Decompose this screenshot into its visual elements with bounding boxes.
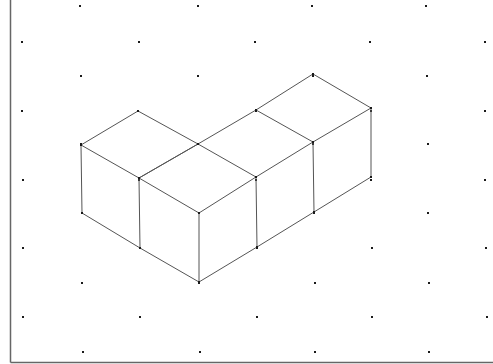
- grid-dot: [21, 110, 23, 112]
- cube-vertex: [139, 247, 141, 249]
- cube-vertex: [80, 144, 82, 146]
- canvas-frame-border: [11, 0, 493, 363]
- grid-dot: [484, 179, 486, 181]
- grid-dot: [82, 351, 84, 353]
- cube-vertex: [313, 211, 315, 213]
- cube-vertex: [198, 212, 200, 214]
- grid-dot: [425, 5, 427, 7]
- grid-dot: [80, 75, 82, 77]
- cube-edge: [313, 108, 371, 142]
- isometric-drawing-canvas: [0, 0, 493, 364]
- cube-edge: [140, 248, 199, 282]
- cube-vertex: [137, 110, 139, 112]
- cube-edge: [139, 144, 198, 178]
- cube-vertices: [80, 73, 372, 283]
- grid-dot: [314, 282, 316, 284]
- cube-edge: [313, 74, 371, 108]
- cube-edge: [314, 177, 371, 212]
- cube-vertex: [312, 141, 314, 143]
- grid-dot: [314, 351, 316, 353]
- cube-vertex: [198, 281, 200, 283]
- grid-dot: [369, 41, 371, 43]
- cube-vertex: [370, 107, 372, 109]
- grid-dot: [22, 247, 24, 249]
- grid-dot: [197, 5, 199, 7]
- cube-vertex: [138, 177, 140, 179]
- grid-dot: [197, 75, 199, 77]
- grid-dot: [371, 247, 373, 249]
- cube-vertex: [197, 143, 199, 145]
- cube-vertex: [255, 176, 257, 178]
- cube-edge: [81, 145, 139, 178]
- cube-edge: [256, 110, 313, 142]
- cube-vertex: [255, 109, 257, 111]
- grid-dot: [485, 247, 487, 249]
- cube-edge: [81, 145, 82, 213]
- cube-edge: [139, 178, 140, 248]
- grid-dot: [199, 351, 201, 353]
- grid-dot: [22, 316, 24, 318]
- grid-dot: [370, 179, 372, 181]
- cube-edge: [138, 111, 198, 144]
- cube-vertex: [312, 73, 314, 75]
- grid-dot: [484, 110, 486, 112]
- cube-edge: [199, 177, 256, 213]
- cube-edge: [256, 177, 257, 247]
- cube-edge: [199, 247, 257, 282]
- cube-edge: [198, 144, 256, 177]
- grid-dot: [22, 179, 24, 181]
- grid-dot: [81, 282, 83, 284]
- grid-dot: [428, 282, 430, 284]
- grid-dot: [427, 143, 429, 145]
- grid-dot: [371, 316, 373, 318]
- cube-edge: [81, 111, 138, 145]
- cube-edge: [256, 142, 313, 177]
- cube-edge: [82, 213, 140, 248]
- cube-vertex: [370, 176, 372, 178]
- grid-dot: [138, 41, 140, 43]
- grid-dot: [484, 41, 486, 43]
- cube-vertex: [256, 246, 258, 248]
- grid-dot: [254, 41, 256, 43]
- grid-dot: [21, 41, 23, 43]
- cube-edge: [139, 178, 199, 213]
- grid-dot: [427, 212, 429, 214]
- grid-dot: [79, 5, 81, 7]
- grid-dot: [426, 75, 428, 77]
- grid-dot: [428, 351, 430, 353]
- grid-dot: [311, 5, 313, 7]
- cube-vertex: [81, 212, 83, 214]
- isometric-cubes-diagram: [0, 0, 493, 364]
- grid-dot: [256, 316, 258, 318]
- grid-dot: [139, 316, 141, 318]
- grid-dot: [312, 75, 314, 77]
- cube-edge: [257, 212, 314, 247]
- isometric-dot-grid: [21, 5, 488, 353]
- grid-dot: [486, 316, 488, 318]
- cube-edge: [313, 142, 314, 212]
- cube-edge: [198, 110, 256, 144]
- cube-edges: [81, 74, 371, 282]
- cube-edge: [256, 74, 313, 110]
